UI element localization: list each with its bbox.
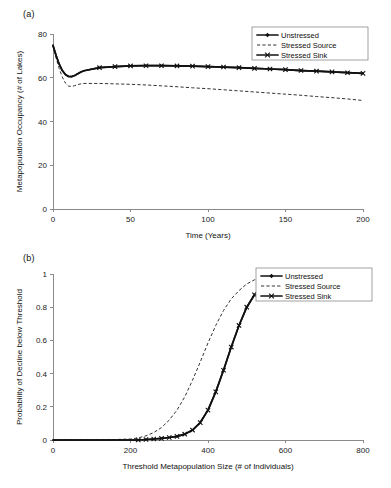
x-tick-label: 0 [51,215,56,224]
legend-label: Stressed Source [285,282,340,291]
y-tick-label: 0 [43,436,48,445]
x-tick-label: 800 [356,446,370,455]
y-tick-label: 60 [38,74,47,83]
legend-label: Unstressed [285,272,323,281]
x-axis-title: Threshold Metapopulation Size (# of Indi… [122,462,294,471]
legend-label: Stressed Sink [281,51,328,60]
x-tick-label: 0 [51,446,56,455]
x-tick-label: 600 [279,446,293,455]
legend-label: Stressed Sink [285,292,332,301]
x-tick-label: 50 [126,215,135,224]
y-tick-label: 0 [43,205,48,214]
x-tick-label: 200 [124,446,138,455]
x-tick-label: 400 [201,446,215,455]
x-axis-title: Time (Years) [185,231,231,240]
y-axis-title: Probability of Decline below Threshold [15,289,24,425]
legend-label: Stressed Source [281,41,336,50]
y-tick-label: 20 [38,161,47,170]
y-tick-label: 0.8 [36,303,48,312]
panel-a: (a) 020406080050100150200Time (Years)Met… [0,0,391,244]
x-tick-label: 200 [356,215,370,224]
x-tick-label: 150 [279,215,293,224]
panel-a-plot: 020406080050100150200Time (Years)Metapop… [0,0,391,244]
y-tick-label: 0.2 [36,403,48,412]
y-tick-label: 0.4 [36,370,48,379]
y-tick-label: 1 [43,270,48,279]
y-axis-title: Metapopulation Occupancy (# of Lakes) [15,50,24,192]
panel-b: (b) 00.20.40.60.810200400600800Threshold… [0,244,391,488]
legend-label: Unstressed [281,31,319,40]
figure-container: (a) 020406080050100150200Time (Years)Met… [0,0,391,488]
panel-b-plot: 00.20.40.60.810200400600800Threshold Met… [0,244,391,488]
y-tick-label: 80 [38,30,47,39]
y-tick-label: 0.6 [36,336,48,345]
y-tick-label: 40 [38,118,47,127]
x-tick-label: 100 [201,215,215,224]
